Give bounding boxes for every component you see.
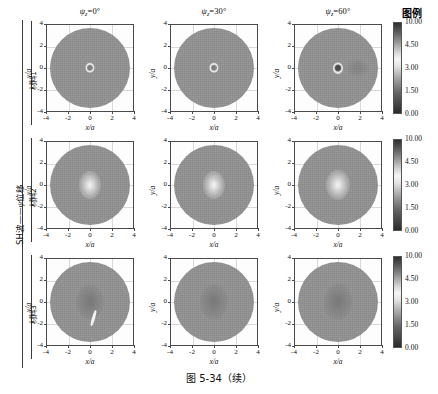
y-tick-label: 2	[153, 158, 167, 166]
x-tick-mark	[338, 345, 339, 348]
y-axis-label: y/a	[24, 186, 33, 195]
x-tick-label: -2	[184, 114, 200, 122]
x-tick-label: 0	[330, 348, 346, 356]
y-tick-mark	[292, 258, 295, 259]
y-axis-label: y/a	[24, 303, 33, 312]
x-tick-label: 4	[126, 348, 142, 356]
x-tick-mark	[316, 111, 317, 114]
x-tick-mark	[170, 345, 171, 348]
colorbar-tick-label: 1.50	[405, 320, 418, 329]
x-tick-label: -2	[184, 348, 200, 356]
x-tick-mark	[236, 228, 237, 231]
panel-frame	[46, 258, 134, 346]
y-tick-mark	[292, 280, 295, 281]
y-tick-mark	[292, 68, 295, 69]
y-axis-label: y/a	[272, 303, 281, 312]
panel-frame	[170, 141, 258, 229]
x-tick-label: 2	[352, 231, 368, 239]
x-tick-label: -4	[38, 348, 54, 356]
column-header-1: ψz=30°	[170, 6, 258, 19]
y-tick-label: 4	[277, 19, 291, 27]
y-tick-mark	[44, 302, 47, 303]
x-tick-label: 0	[82, 114, 98, 122]
x-tick-label: -4	[162, 231, 178, 239]
x-tick-mark	[316, 228, 317, 231]
x-tick-mark	[112, 345, 113, 348]
x-tick-label: -4	[162, 348, 178, 356]
x-tick-mark	[90, 345, 91, 348]
y-tick-label: 4	[29, 136, 43, 144]
y-tick-label: -2	[277, 319, 291, 327]
y-tick-mark	[168, 324, 171, 325]
y-tick-mark	[292, 302, 295, 303]
panel-frame	[294, 141, 382, 229]
y-tick-label: 4	[153, 253, 167, 261]
y-tick-mark	[44, 163, 47, 164]
x-tick-mark	[170, 111, 171, 114]
x-tick-label: -2	[60, 231, 76, 239]
y-tick-label: -2	[153, 85, 167, 93]
y-tick-mark	[292, 24, 295, 25]
y-tick-mark	[168, 46, 171, 47]
y-tick-label: 4	[153, 136, 167, 144]
colorbar-tick-label: 0.00	[405, 226, 418, 235]
colorbar-tick-label: 4.50	[405, 157, 418, 166]
colorbar-2	[393, 256, 402, 348]
x-tick-label: -4	[38, 231, 54, 239]
y-tick-mark	[44, 90, 47, 91]
x-tick-mark	[46, 228, 47, 231]
panel-frame	[46, 24, 134, 112]
x-tick-mark	[214, 228, 215, 231]
y-tick-mark	[44, 207, 47, 208]
x-tick-mark	[316, 345, 317, 348]
colorbar-tick-label: 0.00	[405, 109, 418, 118]
x-tick-label: 4	[250, 114, 266, 122]
panel-r1-c0	[46, 141, 134, 229]
x-tick-label: 4	[374, 348, 390, 356]
x-tick-mark	[134, 228, 135, 231]
x-tick-label: 4	[250, 231, 266, 239]
column-header-0: ψz=0°	[46, 6, 134, 19]
x-tick-mark	[90, 228, 91, 231]
y-tick-label: -2	[277, 202, 291, 210]
colorbar-tick-label: 4.50	[405, 274, 418, 283]
x-tick-label: -4	[286, 114, 302, 122]
x-tick-mark	[258, 111, 259, 114]
x-tick-label: 4	[126, 231, 142, 239]
panel-r0-c0	[46, 24, 134, 112]
center-blob	[79, 171, 101, 199]
y-tick-mark	[168, 90, 171, 91]
y-tick-mark	[168, 141, 171, 142]
x-axis-label: x/a	[70, 240, 110, 249]
y-tick-mark	[168, 302, 171, 303]
y-tick-mark	[44, 68, 47, 69]
figure-caption: 图 5-34（续）	[0, 370, 438, 385]
x-tick-label: 4	[126, 114, 142, 122]
x-tick-label: -4	[38, 114, 54, 122]
x-tick-label: 0	[330, 231, 346, 239]
x-tick-mark	[112, 228, 113, 231]
panel-r2-c0	[46, 258, 134, 346]
y-tick-mark	[292, 90, 295, 91]
y-tick-mark	[168, 163, 171, 164]
y-tick-mark	[292, 324, 295, 325]
y-axis-label: y/a	[148, 186, 157, 195]
x-tick-label: 2	[352, 114, 368, 122]
panel-r0-c2	[294, 24, 382, 112]
x-tick-mark	[192, 345, 193, 348]
x-tick-mark	[236, 111, 237, 114]
panel-r1-c2	[294, 141, 382, 229]
colorbar-tick-label: 4.50	[405, 40, 418, 49]
panel-r2-c2	[294, 258, 382, 346]
x-tick-label: -4	[162, 114, 178, 122]
y-tick-label: 2	[153, 275, 167, 283]
x-tick-label: -2	[308, 348, 324, 356]
y-tick-mark	[44, 185, 47, 186]
x-tick-mark	[46, 345, 47, 348]
x-tick-label: 4	[250, 348, 266, 356]
y-tick-mark	[292, 141, 295, 142]
x-axis-label: x/a	[318, 240, 358, 249]
x-tick-mark	[134, 111, 135, 114]
y-tick-label: 4	[277, 253, 291, 261]
panel-r1-c1	[170, 141, 258, 229]
